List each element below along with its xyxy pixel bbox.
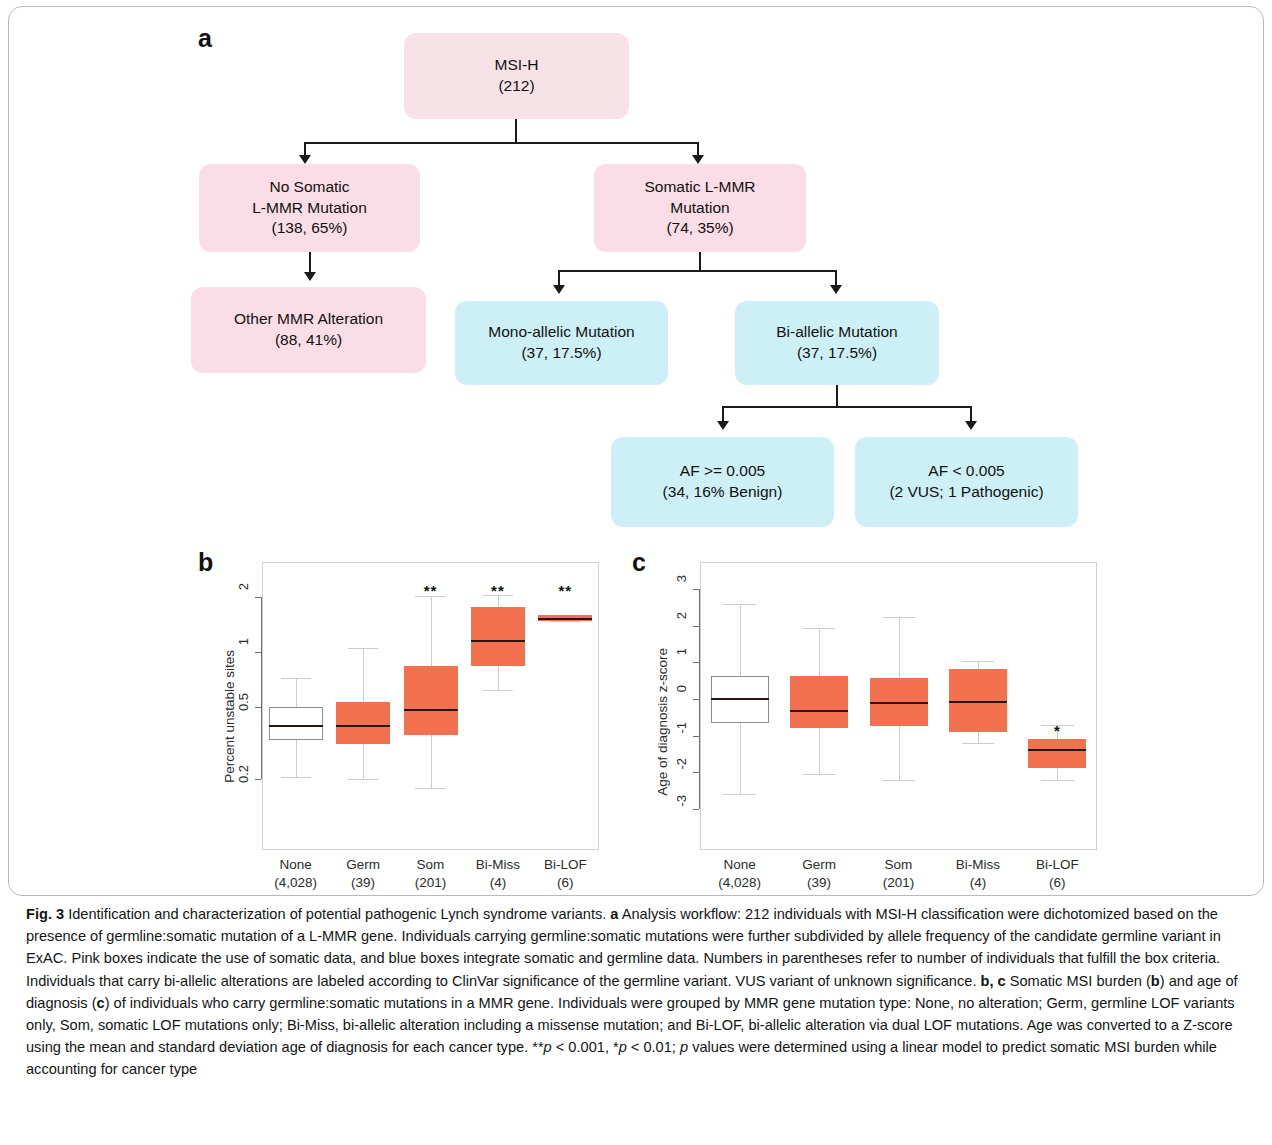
panel-c-y-tick — [693, 699, 699, 700]
panel-c-x-tick-label: None(4,028) — [695, 856, 785, 892]
flow-node-msi-h: MSI-H (212) — [404, 33, 629, 119]
panel-b-y-tick-label: 0.2 — [236, 765, 251, 783]
panel-b-y-tick — [255, 652, 261, 653]
panel-b-whisker-cap — [281, 777, 311, 778]
panel-c-y-tick-label: 0 — [674, 685, 689, 692]
flow-node-af-low-line2: (2 VUS; 1 Pathogenic) — [889, 482, 1043, 503]
panel-b-y-tick — [255, 779, 261, 780]
panel-c-y-tick — [693, 736, 699, 737]
panel-b-significance-bi-miss: ** — [486, 582, 510, 599]
panel-b-x-tick-label: Bi-LOF(6) — [520, 856, 610, 892]
panel-c-median-bi-miss — [949, 701, 1007, 703]
flow-node-bi-allelic-line2: (37, 17.5%) — [797, 343, 877, 364]
panel-c-y-axis-title: Age of diagnosis z-score — [655, 648, 670, 796]
panel-c-x-tick-label: Bi-Miss(4) — [933, 856, 1023, 892]
panel-b-whisker-cap — [483, 690, 513, 691]
flow-node-bi-allelic-line1: Bi-allelic Mutation — [776, 322, 897, 343]
panel-b-median-som — [404, 709, 458, 711]
flow-node-somatic-line1: Somatic L-MMR — [644, 177, 755, 198]
flow-node-mono-allelic: Mono-allelic Mutation (37, 17.5%) — [455, 301, 668, 385]
panel-b-y-axis-line — [261, 597, 262, 779]
panel-c-y-tick — [693, 809, 699, 810]
figure-caption: Fig. 3 Identification and characterizati… — [26, 903, 1248, 1080]
panel-c-x-tick-label: Germ(39) — [774, 856, 864, 892]
panel-c-whisker-cap — [803, 774, 835, 775]
panel-c-x-label-name: None — [695, 856, 785, 874]
connector-biallelic-bar — [722, 406, 972, 408]
caption-p-italic-2: p — [619, 1039, 627, 1055]
flow-node-no-somatic-line1: No Somatic — [269, 177, 349, 198]
arrow-to-no-somatic — [299, 155, 311, 164]
flow-node-af-high-line1: AF >= 0.005 — [680, 461, 765, 482]
caption-text-3: Somatic MSI burden ( — [1006, 973, 1151, 989]
panel-c-whisker-cap — [882, 780, 914, 781]
panel-c-whisker-cap — [882, 617, 914, 618]
flow-node-somatic-line2: Mutation — [670, 198, 729, 219]
panel-c-x-tick-label: Som(201) — [854, 856, 944, 892]
panel-b-significance-som: ** — [419, 582, 443, 599]
arrow-to-bi-allelic — [830, 285, 842, 294]
panel-c-median-none — [711, 698, 769, 700]
caption-text-6: < 0.001, * — [552, 1039, 619, 1055]
panel-c-y-tick-label: -2 — [674, 758, 689, 770]
panel-b-whisker-cap — [550, 621, 580, 622]
flow-node-other-mmr-line2: (88, 41%) — [275, 330, 342, 351]
panel-b-significance-bi-lof: ** — [553, 582, 577, 599]
panel-c-x-label-count: (39) — [774, 874, 864, 892]
panel-c-y-tick-label: 2 — [674, 612, 689, 619]
panel-b-y-axis-title: Percent unstable sites — [222, 650, 237, 783]
panel-c-x-label-count: (4) — [933, 874, 1023, 892]
panel-b-letter: b — [198, 548, 213, 577]
panel-c-y-tick-label: 3 — [674, 575, 689, 582]
panel-b-median-none — [269, 725, 323, 727]
panel-c-x-label-name: Germ — [774, 856, 864, 874]
panel-b-whisker-cap — [415, 788, 445, 789]
panel-c-x-label-count: (4,028) — [695, 874, 785, 892]
flow-node-other-mmr-line1: Other MMR Alteration — [234, 309, 383, 330]
connector-somatic-stem — [699, 252, 701, 271]
panel-b-median-bi-miss — [471, 640, 525, 642]
arrow-to-other-mmr — [304, 272, 316, 281]
flow-node-no-somatic-line3: (138, 65%) — [272, 218, 348, 239]
panel-b-whisker-cap — [348, 779, 378, 780]
panel-c-x-label-count: (6) — [1012, 874, 1102, 892]
connector-msih-stem — [515, 119, 517, 143]
flow-node-no-somatic-line2: L-MMR Mutation — [252, 198, 367, 219]
panel-b-x-label-count: (6) — [520, 874, 610, 892]
panel-c-whisker-cap — [962, 743, 994, 744]
panel-b-median-germ — [336, 725, 390, 727]
caption-p-italic-3: p — [680, 1039, 688, 1055]
flow-node-somatic-line3: (74, 35%) — [666, 218, 733, 239]
caption-fig-label: Fig. 3 — [26, 906, 64, 922]
arrow-to-af-low — [965, 421, 977, 430]
panel-b-box-germ — [336, 702, 390, 744]
caption-text-1: Identification and characterization of p… — [64, 906, 610, 922]
panel-c-x-tick-label: Bi-LOF(6) — [1012, 856, 1102, 892]
caption-bc-label: b, c — [981, 973, 1006, 989]
panel-b-y-tick — [255, 597, 261, 598]
panel-c-median-som — [870, 702, 928, 704]
flow-node-af-low: AF < 0.005 (2 VUS; 1 Pathogenic) — [855, 437, 1078, 527]
flow-node-mono-allelic-line2: (37, 17.5%) — [521, 343, 601, 364]
arrow-to-mono-allelic — [553, 285, 565, 294]
flow-node-other-mmr: Other MMR Alteration (88, 41%) — [191, 287, 426, 373]
panel-c-x-label-name: Bi-LOF — [1012, 856, 1102, 874]
panel-c-whisker-cap — [962, 661, 994, 662]
panel-c-whisker-cap — [1041, 780, 1073, 781]
panel-b-whisker-cap — [281, 678, 311, 679]
panel-b-box-bi-miss — [471, 607, 525, 666]
panel-c-median-bi-lof — [1028, 749, 1086, 751]
panel-b-whisker-cap — [348, 648, 378, 649]
flow-node-af-high: AF >= 0.005 (34, 16% Benign) — [611, 437, 834, 527]
flow-node-af-low-line1: AF < 0.005 — [928, 461, 1004, 482]
connector-biallelic-stem — [836, 385, 838, 407]
panel-b-y-tick-label: 2 — [236, 583, 251, 590]
caption-c-label: c — [97, 995, 105, 1011]
connector-somatic-bar — [558, 270, 836, 272]
panel-b-box-som — [404, 666, 458, 734]
panel-b-y-tick-label: 0.5 — [236, 693, 251, 711]
flow-node-mono-allelic-line1: Mono-allelic Mutation — [488, 322, 634, 343]
connector-msih-bar — [304, 142, 698, 144]
figure-root: a MSI-H (212) No Somatic L-MMR Mutation … — [0, 0, 1272, 1145]
caption-text-7: < 0.01; — [627, 1039, 680, 1055]
